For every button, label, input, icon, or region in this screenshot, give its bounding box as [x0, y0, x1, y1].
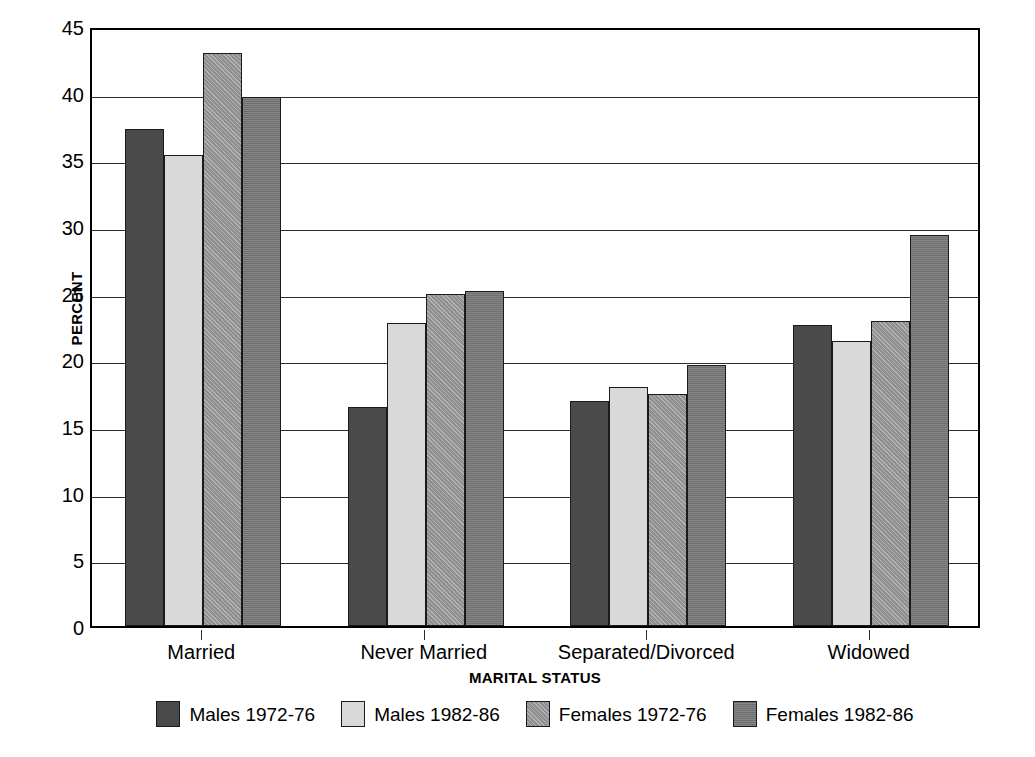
x-axis-tick	[869, 630, 870, 640]
x-axis-tick-marks	[90, 630, 980, 640]
plot-area	[90, 28, 980, 628]
bar[interactable]	[570, 401, 609, 626]
x-axis-tick-label: Widowed	[828, 640, 910, 664]
x-axis-tick	[646, 630, 647, 640]
bar[interactable]	[793, 325, 832, 626]
legend-swatch-icon	[156, 701, 180, 727]
bar-chart: PERCENT 051015202530354045 MarriedNever …	[0, 0, 1035, 757]
y-axis-tick-labels: 051015202530354045	[40, 28, 84, 628]
bar[interactable]	[648, 394, 687, 626]
chart-legend: Males 1972-76Males 1982-86Females 1972-7…	[90, 697, 980, 731]
y-axis-tick-label: 25	[40, 285, 84, 305]
x-axis-tick-label: Never Married	[360, 640, 487, 664]
bar-group	[570, 30, 726, 626]
legend-item[interactable]: Males 1972-76	[156, 701, 315, 727]
bar[interactable]	[609, 387, 648, 626]
legend-item[interactable]: Males 1982-86	[341, 701, 500, 727]
bar-group	[348, 30, 504, 626]
y-axis-tick-label: 5	[40, 551, 84, 571]
bar[interactable]	[387, 323, 426, 626]
y-axis-tick-label: 35	[40, 151, 84, 171]
legend-swatch-icon	[526, 701, 550, 727]
bar-group	[793, 30, 949, 626]
y-axis-tick-label: 0	[40, 618, 84, 638]
y-axis-tick-label: 40	[40, 85, 84, 105]
bar[interactable]	[832, 341, 871, 626]
x-axis-tick-labels: MarriedNever MarriedSeparated/DivorcedWi…	[90, 640, 980, 668]
y-axis-tick-label: 20	[40, 351, 84, 371]
bars-layer	[92, 30, 978, 626]
legend-swatch-icon	[341, 701, 365, 727]
y-axis-tick-label: 45	[40, 18, 84, 38]
y-axis-tick-label: 10	[40, 485, 84, 505]
bar[interactable]	[203, 53, 242, 626]
legend-label: Males 1982-86	[374, 705, 500, 724]
legend-swatch-icon	[733, 701, 757, 727]
bar[interactable]	[871, 321, 910, 626]
x-axis-tick-label: Separated/Divorced	[558, 640, 735, 664]
x-axis-tick-label: Married	[167, 640, 235, 664]
bar[interactable]	[164, 155, 203, 626]
bar[interactable]	[242, 97, 281, 626]
y-axis-tick-label: 30	[40, 218, 84, 238]
legend-label: Males 1972-76	[189, 705, 315, 724]
y-axis-tick-label: 15	[40, 418, 84, 438]
bar[interactable]	[687, 365, 726, 626]
legend-item[interactable]: Females 1982-86	[733, 701, 914, 727]
legend-label: Females 1972-76	[559, 705, 707, 724]
bar[interactable]	[125, 129, 164, 626]
x-axis-tick	[424, 630, 425, 640]
bar[interactable]	[426, 294, 465, 626]
legend-item[interactable]: Females 1972-76	[526, 701, 707, 727]
bar-group	[125, 30, 281, 626]
legend-label: Females 1982-86	[766, 705, 914, 724]
bar[interactable]	[465, 291, 504, 626]
bar[interactable]	[910, 235, 949, 626]
x-axis-tick	[201, 630, 202, 640]
bar[interactable]	[348, 407, 387, 626]
x-axis-title: MARITAL STATUS	[90, 669, 980, 686]
